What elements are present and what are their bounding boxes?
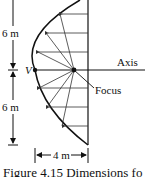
vertex-point — [33, 68, 37, 72]
ray-reflected — [39, 70, 74, 88]
axis-label: Axis — [117, 56, 138, 68]
height-dimension: 6 m 6 m — [2, 0, 19, 145]
top-height-label: 6 m — [2, 27, 19, 39]
parabola-curve — [32, 0, 88, 145]
figure-caption: Figure 4.15 Dimensions fo — [3, 165, 156, 177]
bottom-height-label: 6 m — [2, 101, 19, 113]
diagram-canvas: 6 m 6 m Axis V — [0, 0, 156, 177]
ray-reflected — [46, 33, 74, 70]
depth-label: 4 m — [53, 149, 70, 161]
ray-reflected — [38, 52, 74, 70]
parabolic-reflector-diagram: 6 m 6 m Axis V — [0, 0, 156, 177]
focus-label: Focus — [95, 84, 121, 96]
vertex-label: V — [25, 64, 33, 76]
depth-dimension: 4 m — [35, 148, 88, 163]
ray-reflected — [60, 14, 74, 70]
focus-leader-line — [74, 70, 94, 88]
